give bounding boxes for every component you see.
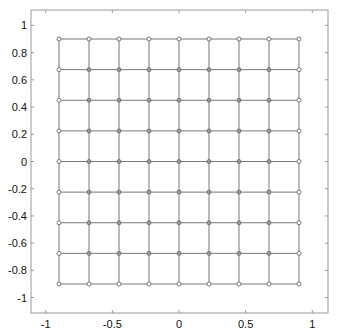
mesh-node — [207, 68, 211, 72]
mesh-node — [297, 160, 301, 164]
mesh-node — [87, 282, 91, 286]
mesh-node — [87, 68, 91, 72]
x-tick-label: -1 — [41, 318, 51, 330]
mesh-node — [297, 37, 301, 41]
mesh-node — [237, 37, 241, 41]
mesh-node — [207, 251, 211, 255]
mesh-node — [117, 282, 121, 286]
mesh-node — [57, 129, 61, 133]
mesh-node — [177, 98, 181, 102]
mesh-node — [117, 129, 121, 133]
y-tick-label: 0 — [21, 156, 27, 168]
y-tick-label: 0.6 — [12, 74, 27, 86]
mesh-node — [57, 68, 61, 72]
mesh-node — [207, 221, 211, 225]
mesh-node — [117, 251, 121, 255]
mesh-node — [147, 282, 151, 286]
mesh-node — [237, 68, 241, 72]
x-tick-label: 0 — [176, 318, 182, 330]
mesh-node — [297, 129, 301, 133]
mesh-node — [177, 190, 181, 194]
mesh-node — [147, 98, 151, 102]
mesh-node — [147, 221, 151, 225]
mesh-node — [267, 190, 271, 194]
mesh-node — [177, 282, 181, 286]
mesh-node — [267, 282, 271, 286]
mesh-node — [237, 251, 241, 255]
mesh-node — [117, 68, 121, 72]
y-tick-label: 0.8 — [12, 47, 27, 59]
mesh-node — [117, 37, 121, 41]
mesh-node — [297, 98, 301, 102]
mesh-node — [147, 68, 151, 72]
mesh-node — [57, 98, 61, 102]
mesh-node — [87, 251, 91, 255]
mesh-node — [117, 160, 121, 164]
y-tick-label: -0.8 — [8, 264, 27, 276]
y-tick-label: 1 — [21, 19, 27, 31]
mesh-node — [117, 98, 121, 102]
y-tick-label: -0.2 — [8, 183, 27, 195]
y-tick-label: -0.6 — [8, 237, 27, 249]
mesh-node — [177, 221, 181, 225]
mesh-node — [147, 37, 151, 41]
mesh-node — [207, 190, 211, 194]
mesh-node — [57, 37, 61, 41]
mesh-node — [147, 251, 151, 255]
y-tick-label: -1 — [17, 292, 27, 304]
x-tick-label: 0.5 — [238, 318, 253, 330]
x-tick-label: -0.5 — [103, 318, 122, 330]
mesh-node — [237, 221, 241, 225]
mesh-node — [57, 160, 61, 164]
mesh-node — [57, 251, 61, 255]
x-tick-label: 1 — [309, 318, 315, 330]
mesh-node — [87, 221, 91, 225]
mesh-node — [267, 221, 271, 225]
mesh-node — [87, 98, 91, 102]
mesh-node — [267, 98, 271, 102]
mesh-node — [147, 160, 151, 164]
mesh-node — [237, 160, 241, 164]
mesh-node — [87, 160, 91, 164]
mesh-node — [177, 129, 181, 133]
mesh-node — [87, 190, 91, 194]
mesh-node — [147, 190, 151, 194]
y-tick-label: 0.4 — [12, 101, 27, 113]
mesh-node — [117, 190, 121, 194]
mesh-node — [207, 160, 211, 164]
mesh-node — [207, 129, 211, 133]
mesh-node — [87, 37, 91, 41]
mesh-plot: -1-0.500.51 -1-0.8-0.6-0.4-0.200.20.40.6… — [0, 0, 340, 336]
y-tick-label: -0.4 — [8, 210, 27, 222]
mesh-node — [57, 190, 61, 194]
mesh-node — [237, 129, 241, 133]
mesh-node — [297, 221, 301, 225]
mesh-node — [297, 282, 301, 286]
mesh-node — [297, 251, 301, 255]
y-tick-label: 0.2 — [12, 128, 27, 140]
mesh-node — [117, 221, 121, 225]
mesh-node — [147, 129, 151, 133]
mesh-node — [87, 129, 91, 133]
mesh-node — [207, 37, 211, 41]
mesh-node — [177, 37, 181, 41]
mesh-node — [177, 160, 181, 164]
mesh-node — [267, 251, 271, 255]
mesh-node — [297, 68, 301, 72]
mesh-node — [237, 98, 241, 102]
mesh-node — [267, 68, 271, 72]
mesh-node — [237, 190, 241, 194]
mesh-node — [267, 37, 271, 41]
mesh-node — [297, 190, 301, 194]
mesh-node — [267, 160, 271, 164]
mesh-node — [177, 251, 181, 255]
x-tick-labels: -1-0.500.51 — [41, 318, 316, 330]
mesh-node — [207, 98, 211, 102]
mesh-node — [237, 282, 241, 286]
mesh-node — [267, 129, 271, 133]
y-tick-labels: -1-0.8-0.6-0.4-0.200.20.40.60.81 — [8, 19, 27, 303]
mesh-node — [177, 68, 181, 72]
mesh-node — [207, 282, 211, 286]
mesh-node — [57, 282, 61, 286]
mesh-node — [57, 221, 61, 225]
